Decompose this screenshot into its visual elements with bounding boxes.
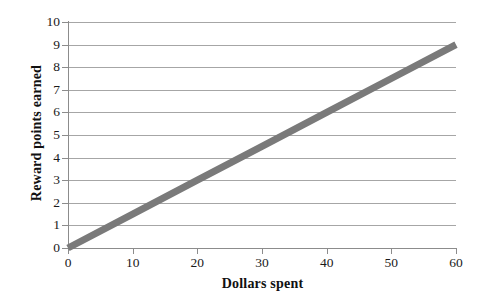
x-tick-mark — [327, 249, 328, 254]
gridline-horizontal — [68, 67, 456, 68]
x-tick-mark — [197, 249, 198, 254]
x-tick-label: 50 — [371, 256, 411, 270]
gridline-horizontal — [68, 45, 456, 46]
y-tick-mark — [62, 22, 68, 23]
y-tick-mark — [62, 45, 68, 46]
y-tick-label: 0 — [20, 241, 60, 255]
x-tick-label: 20 — [177, 256, 217, 270]
chart-figure: 012345678910 0102030405060 Dollars spent… — [0, 0, 483, 307]
gridline-horizontal — [68, 158, 456, 159]
x-tick-label: 60 — [436, 256, 476, 270]
x-tick-label: 40 — [307, 256, 347, 270]
x-tick-label: 30 — [242, 256, 282, 270]
y-tick-mark — [62, 180, 68, 181]
gridline-horizontal — [68, 90, 456, 91]
y-tick-mark — [62, 158, 68, 159]
gridline-horizontal — [68, 203, 456, 204]
y-tick-label: 10 — [20, 15, 60, 29]
gridline-horizontal — [68, 22, 456, 23]
y-tick-mark — [62, 225, 68, 226]
x-axis-title: Dollars spent — [68, 276, 457, 292]
x-tick-label: 0 — [48, 256, 88, 270]
gridline-horizontal — [68, 180, 456, 181]
gridline-horizontal — [68, 135, 456, 136]
x-tick-mark — [391, 249, 392, 254]
gridline-horizontal — [68, 225, 456, 226]
gridline-horizontal — [68, 112, 456, 113]
y-axis-line — [68, 21, 69, 249]
y-tick-mark — [62, 112, 68, 113]
y-tick-mark — [62, 203, 68, 204]
y-axis-title: Reward points earned — [29, 33, 45, 233]
y-tick-mark — [62, 135, 68, 136]
x-tick-mark — [133, 249, 134, 254]
x-tick-mark — [68, 249, 69, 254]
x-tick-label: 10 — [113, 256, 153, 270]
x-tick-mark — [262, 249, 263, 254]
x-tick-mark — [456, 249, 457, 254]
y-tick-mark — [62, 90, 68, 91]
y-tick-mark — [62, 67, 68, 68]
